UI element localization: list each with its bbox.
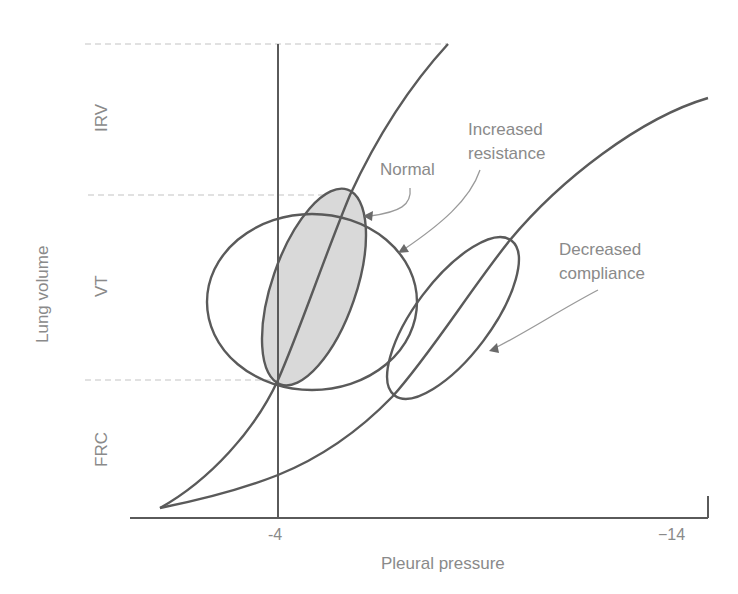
region-label-irv: IRV	[92, 104, 112, 132]
x-tick-minus4: -4	[268, 526, 282, 544]
region-label-vt: VT	[92, 275, 112, 297]
compliance-arrow-line	[497, 290, 598, 347]
annotation-decreased-compliance-1: Decreased	[559, 240, 641, 260]
resistance-arrowhead	[398, 244, 409, 253]
y-axis-label: Lung volume	[33, 246, 53, 343]
normal-arrow-line	[370, 188, 410, 216]
pressure-volume-diagram	[0, 0, 738, 594]
annotation-normal: Normal	[380, 160, 435, 180]
x-tick-minus14: −14	[658, 526, 685, 544]
region-label-frc: FRC	[92, 432, 112, 467]
annotation-increased-resistance-1: Increased	[468, 120, 543, 140]
annotation-increased-resistance-2: resistance	[468, 144, 545, 164]
x-axis-label: Pleural pressure	[381, 554, 505, 574]
resistance-arrow-line	[403, 170, 480, 250]
annotation-decreased-compliance-2: compliance	[559, 264, 645, 284]
compliance-arrowhead	[489, 343, 499, 353]
